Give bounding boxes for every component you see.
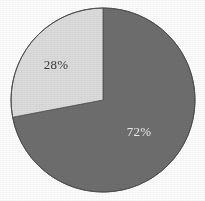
pie-slice-28-percent[interactable]: [11, 8, 103, 117]
pie-chart: 72% 28%: [0, 0, 205, 201]
pie-chart-canvas: 72% 28%: [0, 0, 205, 201]
